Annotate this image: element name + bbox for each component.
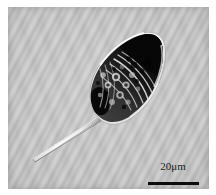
micrograph-plate: 20μm	[8, 7, 209, 189]
micrograph-figure: 20μm	[0, 0, 216, 195]
scale-bar-label: 20μm	[144, 160, 202, 172]
scale-bar: 20μm	[144, 160, 202, 189]
scale-bar-line	[148, 182, 199, 185]
